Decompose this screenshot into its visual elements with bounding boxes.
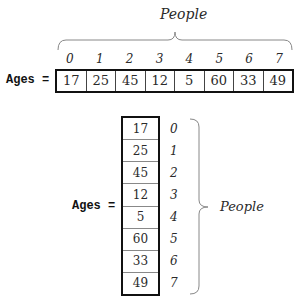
vertical-group-label: People xyxy=(220,199,264,214)
vertical-brace-icon xyxy=(0,0,300,301)
